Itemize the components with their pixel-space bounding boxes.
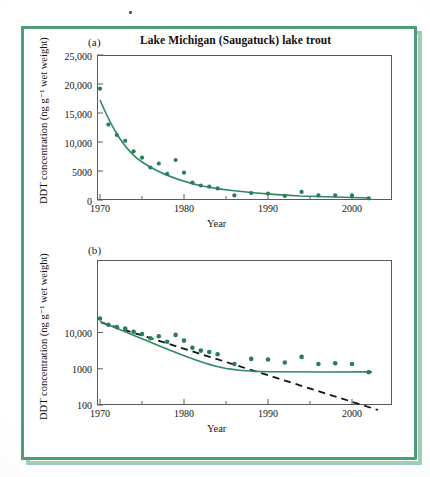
panel-b-xtick-1990: 1990 (246, 408, 290, 419)
panel-b-y-ticks (97, 333, 103, 406)
panel-b-graphics (0, 0, 430, 477)
panel-b-data-points (98, 316, 371, 374)
panel-b-xtick-2000: 2000 (330, 408, 374, 419)
scanned-page-background: (a) Lake Michigan (Saugatuck) lake trout… (0, 0, 430, 477)
panel-b-x-ticks (100, 399, 352, 405)
panel-b-xtick-1980: 1980 (162, 408, 206, 419)
panel-b-xtick-1970: 1970 (78, 408, 122, 419)
panel-b-x-axis-title: Year (207, 423, 226, 434)
